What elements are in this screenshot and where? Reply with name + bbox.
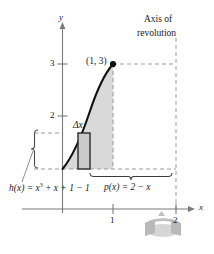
point-label: (1, 3) (86, 57, 107, 67)
p-brace (90, 173, 172, 180)
h-leader-line (22, 151, 33, 182)
x-axis-label: x (199, 203, 203, 212)
y-axis-arrow (60, 22, 66, 29)
y-axis-label: y (59, 13, 63, 22)
x-axis-arrow (188, 206, 195, 212)
endpoint-dot (110, 61, 116, 67)
p-of-x-label: p(x) = 2 − x (104, 183, 151, 193)
representative-rectangle (78, 133, 90, 169)
h-of-x-suffix: + x + 1 − 1 (43, 183, 90, 193)
h-of-x-prefix: h(x) = x (9, 183, 40, 193)
axis-of-revolution-label-line1: Axis of (144, 15, 172, 25)
h-of-x-label: h(x) = x3 + x + 1 − 1 (9, 183, 90, 194)
y-tick-label-2: 2 (50, 111, 55, 120)
x-tick-label-2: 2 (173, 216, 178, 225)
x-tick-label-1: 1 (110, 216, 115, 225)
figure-canvas: y x 3 2 1 2 Axis of revolution (1, 3) Δx… (0, 0, 214, 254)
diagram-svg (0, 0, 214, 254)
axis-of-revolution-label-line2: revolution (137, 29, 176, 39)
h-brace (31, 130, 38, 168)
y-tick-label-3: 3 (50, 59, 55, 68)
delta-x-label: Δx (73, 121, 83, 131)
